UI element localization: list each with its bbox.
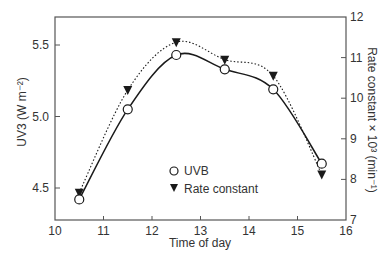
x-axis: 10111213141516 <box>48 216 353 238</box>
x-tick-label: 12 <box>145 224 159 238</box>
x-tick-label: 11 <box>97 224 110 238</box>
legend-rate-marker-icon <box>170 184 178 192</box>
y-tick-label: 4.5 <box>32 181 49 195</box>
y-right-tick-label: 10 <box>350 91 364 105</box>
y-axis-left: 4.55.05.5 <box>32 38 60 195</box>
dual-axis-line-chart: 10111213141516 4.55.05.5 789101112 Time … <box>0 0 392 262</box>
legend: UVB Rate constant <box>170 164 259 196</box>
y-tick-label: 5.5 <box>32 38 49 52</box>
x-tick-label: 10 <box>48 224 62 238</box>
uvb-point <box>123 105 132 114</box>
uvb-point <box>172 51 181 60</box>
y-right-tick-label: 9 <box>350 132 357 146</box>
x-axis-title: Time of day <box>169 236 231 250</box>
uvb-markers <box>75 51 327 204</box>
y-right-tick-label: 7 <box>350 213 357 227</box>
uvb-point <box>317 159 326 168</box>
y-axis-right-title: Rate constant × 10³ (min⁻¹) <box>365 47 379 193</box>
y-right-tick-label: 11 <box>350 51 363 65</box>
y-right-tick-label: 8 <box>350 172 357 186</box>
rate-constant-point <box>317 171 326 180</box>
legend-rate-label: Rate constant <box>184 182 259 196</box>
uvb-point <box>220 65 229 74</box>
y-right-tick-label: 12 <box>350 10 364 24</box>
legend-uvb-marker-icon <box>170 167 178 175</box>
uvb-point <box>75 195 84 204</box>
rate-constant-point <box>123 86 132 95</box>
x-tick-label: 15 <box>291 224 305 238</box>
rate-constant-point <box>269 72 278 81</box>
rate-constant-point <box>172 38 181 47</box>
legend-uvb-label: UVB <box>184 164 209 178</box>
x-tick-label: 14 <box>242 224 256 238</box>
y-axis-left-title: UV3 (W m⁻²) <box>15 77 29 146</box>
y-tick-label: 5.0 <box>32 110 49 124</box>
uvb-point <box>269 85 278 94</box>
y-axis-right: 789101112 <box>341 10 364 227</box>
